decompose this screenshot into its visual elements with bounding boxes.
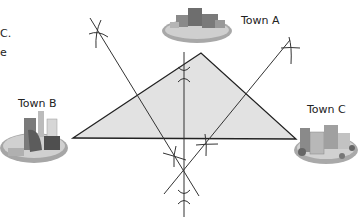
town-b-label: Town B [18, 97, 57, 110]
town-a-label: Town A [241, 14, 280, 27]
perpendicular-bisector-diagram: C. e Town A Town B Town C [0, 0, 364, 220]
cropped-text-line-2: e [0, 46, 7, 59]
town-b-icon [0, 111, 68, 163]
arc-mark-ac-top [281, 37, 300, 64]
cropped-text-line-1: C. [0, 27, 11, 40]
arc-mark-ab-bottom [163, 146, 186, 167]
arc-mark-ab-top [89, 20, 108, 48]
town-c-icon [294, 125, 358, 164]
town-c-label: Town C [307, 103, 346, 116]
town-a-icon [162, 8, 232, 43]
